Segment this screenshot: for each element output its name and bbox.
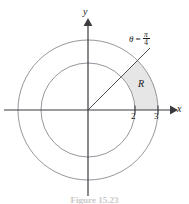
- y-axis-arrowhead: [84, 18, 93, 26]
- figure-caption: Figure 15.23: [0, 195, 189, 204]
- theta-label-leader: [143, 48, 150, 55]
- x-tick-label-3: 3: [154, 112, 159, 121]
- region-label-R: R: [138, 79, 144, 89]
- theta-equation-label: θ = π 4: [129, 31, 150, 48]
- fraction-denominator: 4: [143, 39, 149, 47]
- equals-sign: =: [135, 35, 140, 44]
- polar-region-figure: y x R 2 3 θ = π 4 Figure 15.23: [0, 0, 189, 204]
- pi-over-four-fraction: π 4: [143, 31, 150, 48]
- theta-symbol: θ: [129, 35, 133, 44]
- y-axis-label: y: [83, 7, 87, 17]
- fraction-numerator: π: [143, 31, 149, 39]
- x-axis-label: x: [177, 104, 181, 114]
- figure-canvas: [0, 0, 189, 204]
- x-tick-label-2: 2: [131, 112, 136, 121]
